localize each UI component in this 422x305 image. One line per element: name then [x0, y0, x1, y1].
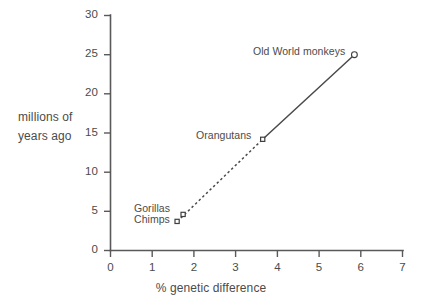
x-tick-label-7: 7: [391, 261, 415, 273]
series-segment-solid: [263, 55, 355, 140]
data-point-old-world-monkeys: [352, 52, 358, 58]
chart-figure: 0 5 10 15 20 25 30 0 1 2 3 4 5 6 7 milli…: [0, 0, 422, 305]
y-tick-label-30: 30: [68, 8, 98, 20]
x-tick-label-0: 0: [99, 261, 123, 273]
point-label-orangutans: Orangutans: [196, 130, 251, 141]
y-tick-label-5: 5: [68, 204, 98, 216]
y-tick-label-20: 20: [68, 86, 98, 98]
x-tick-label-4: 4: [265, 261, 289, 273]
data-point-orangutans: [261, 137, 265, 141]
x-tick-label-3: 3: [224, 261, 248, 273]
x-tick-label-5: 5: [307, 261, 331, 273]
y-tick-label-10: 10: [68, 165, 98, 177]
point-label-chimps: Chimps: [134, 214, 170, 225]
data-point-gorillas: [181, 212, 185, 216]
y-axis-title-line2: years ago: [18, 127, 72, 146]
y-axis-title-line1: millions of: [18, 108, 72, 127]
x-tick-label-2: 2: [182, 261, 206, 273]
y-tick-label-0: 0: [68, 243, 98, 255]
y-tick-label-15: 15: [68, 126, 98, 138]
data-point-chimps: [175, 219, 179, 223]
point-label-old-world-monkeys: Old World monkeys: [253, 46, 345, 57]
x-axis-title: % genetic difference: [0, 281, 422, 295]
x-axis-ticks: [111, 251, 403, 258]
y-axis-title: millions of years ago: [18, 108, 72, 146]
x-tick-label-6: 6: [349, 261, 373, 273]
y-tick-label-25: 25: [68, 47, 98, 59]
series-segment-dashed: [177, 139, 263, 221]
x-tick-label-1: 1: [140, 261, 164, 273]
y-axis-ticks: [104, 16, 111, 251]
chart-plot-area: [0, 0, 422, 305]
